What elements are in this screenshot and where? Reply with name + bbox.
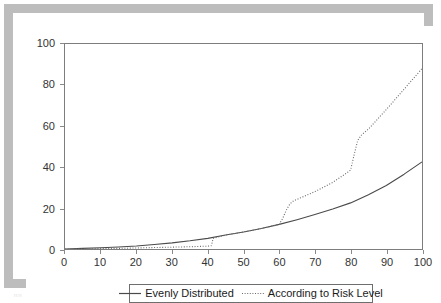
legend-entry-according-to-risk-level: According to Risk Level (242, 288, 383, 299)
x-tick-mark (387, 250, 388, 254)
x-tick-label: 70 (309, 257, 321, 268)
x-tick-mark (100, 250, 101, 254)
x-tick-label: 80 (345, 257, 357, 268)
x-tick-label: 0 (61, 257, 67, 268)
x-tick-mark (315, 250, 316, 254)
y-tick-label: 40 (26, 162, 55, 173)
y-tick-label: 80 (26, 79, 55, 90)
x-tick-mark (64, 250, 65, 254)
x-tick-mark (208, 250, 209, 254)
footer-artifact: nn (14, 292, 23, 298)
x-tick-mark (351, 250, 352, 254)
x-tick-label: 50 (237, 257, 249, 268)
y-tick-label: 0 (26, 245, 55, 256)
line-solid-icon (119, 289, 141, 298)
plot-area (64, 43, 423, 250)
x-tick-mark (423, 250, 424, 254)
series-line-evenly-distributed (65, 162, 422, 249)
y-tick-label: 100 (26, 38, 55, 49)
legend-label-according-to-risk-level: According to Risk Level (268, 288, 383, 299)
chart-legend: Evenly Distributed According to Risk Lev… (129, 284, 373, 303)
y-tick-label: 60 (26, 120, 55, 131)
x-tick-mark (172, 250, 173, 254)
x-tick-mark (279, 250, 280, 254)
x-tick-label: 100 (414, 257, 432, 268)
x-tick-label: 60 (273, 257, 285, 268)
figure-root: 020406080100 0102030405060708090100 Even… (0, 0, 441, 303)
x-tick-mark (244, 250, 245, 254)
series-line-according-to-risk-level (65, 69, 422, 249)
line-dotted-icon (242, 289, 264, 298)
x-tick-label: 20 (130, 257, 142, 268)
x-tick-label: 10 (94, 257, 106, 268)
x-tick-label: 40 (201, 257, 213, 268)
plot-lines (65, 44, 422, 249)
chart-canvas: 020406080100 0102030405060708090100 Even… (26, 26, 441, 292)
x-tick-label: 30 (166, 257, 178, 268)
x-tick-mark (136, 250, 137, 254)
legend-entry-evenly-distributed: Evenly Distributed (119, 288, 234, 299)
figure-outer-frame: 020406080100 0102030405060708090100 Even… (4, 4, 433, 288)
legend-label-evenly-distributed: Evenly Distributed (145, 288, 234, 299)
y-tick-label: 20 (26, 203, 55, 214)
x-tick-label: 90 (381, 257, 393, 268)
